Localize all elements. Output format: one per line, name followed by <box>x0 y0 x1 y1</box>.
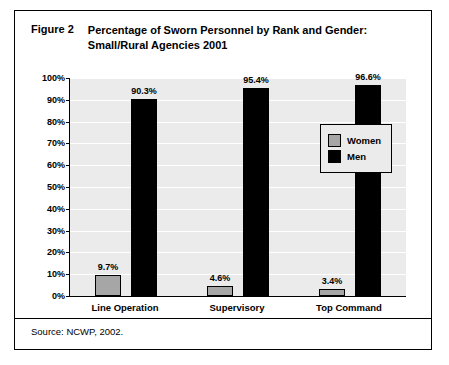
figure-title: Percentage of Sworn Personnel by Rank an… <box>88 23 367 53</box>
y-axis-tick-mark <box>66 296 70 297</box>
y-axis-tick-label: 30% <box>47 226 65 236</box>
y-axis-tick-mark <box>66 231 70 232</box>
y-axis-tick-mark <box>66 187 70 188</box>
bar-men-supervisory <box>243 88 269 296</box>
bar-women-line-operation <box>95 275 121 296</box>
legend-item-men: Men <box>328 150 381 163</box>
figure-title-line-2: Small/Rural Agencies 2001 <box>88 38 367 53</box>
source-divider <box>15 318 431 319</box>
y-axis-tick-label: 40% <box>47 204 65 214</box>
bar-value-label: 9.7% <box>87 262 129 272</box>
legend-swatch-men-icon <box>328 150 341 163</box>
y-axis-tick-label: 70% <box>47 138 65 148</box>
bar-value-label: 96.6% <box>347 72 389 82</box>
x-axis-label-top-command: Top Command <box>289 302 409 313</box>
bar-value-label: 95.4% <box>235 75 277 85</box>
source-note: Source: NCWP, 2002. <box>31 326 123 337</box>
y-axis-tick-mark <box>66 274 70 275</box>
y-axis-tick-labels: 0%10%20%30%40%50%60%70%80%90%100% <box>31 74 69 318</box>
bar-men-line-operation <box>131 99 157 296</box>
bar-value-label: 90.3% <box>123 86 165 96</box>
bar-value-label: 4.6% <box>199 273 241 283</box>
y-axis-tick-label: 100% <box>42 73 65 83</box>
legend-swatch-women-icon <box>328 134 341 147</box>
legend-label-men: Men <box>347 151 366 162</box>
y-axis-tick-label: 20% <box>47 247 65 257</box>
chart-plot-area: 9.7%90.3%4.6%95.4%3.4%96.6% Women Men <box>69 78 406 297</box>
y-axis-tick-label: 80% <box>47 117 65 127</box>
bar-men-top-command <box>355 85 381 296</box>
y-axis-tick-mark <box>66 165 70 166</box>
y-axis-tick-label: 60% <box>47 160 65 170</box>
bar-value-label: 3.4% <box>311 276 353 286</box>
y-axis-tick-label: 10% <box>47 269 65 279</box>
figure-label: Figure 2 <box>31 23 88 35</box>
figure-title-line-1: Percentage of Sworn Personnel by Rank an… <box>88 23 367 38</box>
x-axis-label-line-operation: Line Operation <box>65 302 185 313</box>
y-axis-tick-label: 50% <box>47 182 65 192</box>
y-axis-tick-label: 90% <box>47 95 65 105</box>
figure-title-row: Figure 2 Percentage of Sworn Personnel b… <box>31 23 417 53</box>
y-axis-tick-mark <box>66 100 70 101</box>
y-axis-tick-mark <box>66 252 70 253</box>
legend-item-women: Women <box>328 134 381 147</box>
bar-women-supervisory <box>207 286 233 296</box>
chart-plot-wrapper: 0%10%20%30%40%50%60%70%80%90%100% 9.7%90… <box>31 74 417 318</box>
y-axis-tick-mark <box>66 78 70 79</box>
x-axis-label-supervisory: Supervisory <box>177 302 297 313</box>
chart-legend: Women Men <box>320 124 392 173</box>
figure-card: Figure 2 Percentage of Sworn Personnel b… <box>14 10 432 350</box>
y-axis-tick-mark <box>66 143 70 144</box>
legend-label-women: Women <box>347 135 381 146</box>
y-axis-tick-mark <box>66 209 70 210</box>
y-axis-tick-mark <box>66 122 70 123</box>
y-axis-tick-label: 0% <box>52 291 65 301</box>
bar-women-top-command <box>319 289 345 296</box>
